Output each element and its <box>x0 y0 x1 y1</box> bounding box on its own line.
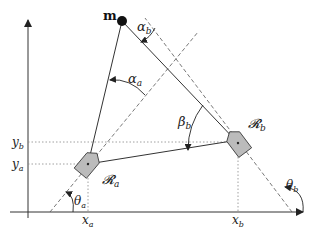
theta-a-arc <box>66 192 73 212</box>
robot-b-label: 𝓡b <box>248 116 266 133</box>
heading-b-line <box>145 18 292 212</box>
y-b-label: yb <box>11 135 24 151</box>
landmark-label: m <box>103 8 117 23</box>
line-a-to-b <box>88 140 238 164</box>
diagram-canvas: m αa αb βb 𝓡a 𝓡b yb ya xa xb θa θb <box>0 0 323 233</box>
robot-a[interactable] <box>74 148 103 178</box>
x-a-label: xa <box>82 213 94 229</box>
y-a-label: ya <box>11 157 24 173</box>
landmark-m[interactable] <box>117 16 127 26</box>
guide-lines <box>28 142 238 212</box>
beta-b-label: βb <box>177 114 192 131</box>
bearing-lines <box>88 21 238 164</box>
theta-a-label: θa <box>74 194 86 210</box>
alpha-a-label: αa <box>128 71 142 88</box>
robot-a-label: 𝓡a <box>102 172 119 189</box>
alpha-b-label: αb <box>137 19 152 36</box>
line-a-to-m <box>88 21 122 164</box>
heading-lines <box>50 18 292 212</box>
x-b-label: xb <box>232 213 244 229</box>
theta-b-label: θb <box>286 178 298 194</box>
